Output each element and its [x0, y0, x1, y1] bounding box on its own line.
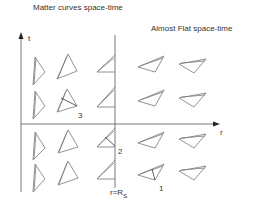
triangle: [57, 89, 77, 112]
boundary-label-sub: S: [123, 193, 127, 199]
marker-2: 2: [118, 148, 122, 156]
boundary-label: r=RS: [110, 189, 127, 199]
boundary-label-main: r=R: [110, 188, 123, 197]
triangle: [97, 128, 115, 147]
triangle: [179, 59, 206, 73]
triangle: [58, 161, 78, 185]
light-cone-triangles: [33, 54, 206, 192]
triangle: [33, 132, 45, 160]
triangle: [138, 56, 164, 72]
triangle: [138, 132, 164, 148]
triangle: [179, 93, 206, 107]
triangle: [97, 55, 115, 72]
triangle: [97, 87, 115, 107]
triangle: [57, 54, 77, 79]
triangle: [138, 164, 164, 180]
triangle: [179, 134, 206, 148]
marker-1: 1: [159, 185, 163, 193]
title-matter-curves: Matter curves space-time: [33, 4, 123, 12]
title-almost-flat: Almost Flat space-time: [151, 25, 232, 33]
triangle: [33, 164, 45, 192]
t-axis: [19, 32, 24, 192]
triangle: [58, 130, 78, 153]
t-axis-label: t: [28, 35, 30, 43]
triangle: [33, 57, 45, 85]
triangle: [33, 91, 45, 119]
triangle: [179, 166, 206, 180]
r-axis: [21, 122, 220, 127]
triangle: [138, 90, 164, 106]
triangle: [97, 160, 115, 179]
marker-3: 3: [78, 112, 82, 120]
r-axis-label: r: [220, 129, 223, 137]
